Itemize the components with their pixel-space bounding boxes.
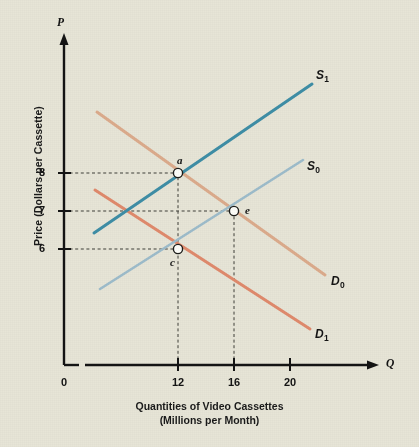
curve-label-D1-letter: D xyxy=(315,327,324,341)
curve-label-D1-subscript: 1 xyxy=(324,333,329,343)
curve-D0 xyxy=(97,112,325,275)
point-marker-e xyxy=(229,206,238,215)
x-axis-arrowhead xyxy=(367,361,379,370)
point-label-c: c xyxy=(170,256,175,268)
x-tick-label-12: 12 xyxy=(166,376,190,388)
curve-label-S1: S1 xyxy=(316,68,329,82)
x-axis-title-line-2: (Millions per Month) xyxy=(0,414,419,428)
point-label-e: e xyxy=(245,204,250,216)
point-marker-c xyxy=(173,244,182,253)
curve-label-S0-letter: S xyxy=(307,159,315,173)
x-axis-symbol: Q xyxy=(386,357,394,369)
curve-S1 xyxy=(94,84,312,233)
curve-label-S1-letter: S xyxy=(316,68,324,82)
curve-label-S0-subscript: 0 xyxy=(315,165,320,175)
x-axis-title: Quantities of Video Cassettes (Millions … xyxy=(0,400,419,427)
axis-lines xyxy=(60,33,380,370)
y-axis-symbol: P xyxy=(57,16,64,28)
y-axis-title: Price (Dollars per Cassette) xyxy=(32,76,44,276)
curve-S0 xyxy=(100,160,303,289)
x-origin-label: 0 xyxy=(56,376,72,388)
point-marker-a xyxy=(173,168,182,177)
point-label-a: a xyxy=(177,154,183,166)
curve-label-D1: D1 xyxy=(315,327,328,341)
curve-label-D0-letter: D xyxy=(331,274,340,288)
guide-lines xyxy=(64,173,234,365)
curve-label-S0: S0 xyxy=(307,159,320,173)
x-tick-label-20: 20 xyxy=(278,376,302,388)
curve-label-D0-subscript: 0 xyxy=(340,280,345,290)
curve-label-S1-subscript: 1 xyxy=(324,74,329,84)
x-tick-label-16: 16 xyxy=(222,376,246,388)
x-axis-title-line-1: Quantities of Video Cassettes xyxy=(0,400,419,414)
tick-marks xyxy=(58,173,290,371)
y-axis-arrowhead xyxy=(60,33,69,45)
curve-label-D0: D0 xyxy=(331,274,344,288)
economics-supply-demand-figure: P Q 8 7 6 0 12 16 20 Price (Dollars per … xyxy=(0,0,419,447)
